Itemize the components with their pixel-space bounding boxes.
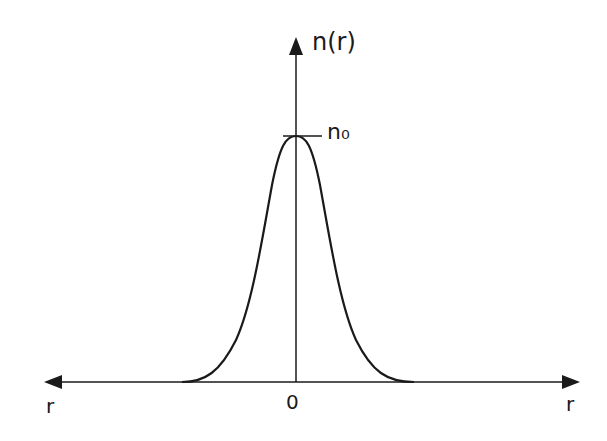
index-profile-plot bbox=[0, 0, 607, 441]
origin-label: 0 bbox=[286, 392, 299, 412]
x-axis-right-label: r bbox=[566, 394, 574, 414]
left-arrow-icon bbox=[44, 375, 62, 389]
x-axis-left-label: r bbox=[46, 396, 54, 416]
y-axis-label: n(r) bbox=[312, 30, 356, 54]
up-arrow-icon bbox=[289, 37, 303, 55]
index-profile-curve bbox=[182, 136, 414, 382]
diagram-canvas: n(r) n₀ 0 r r bbox=[0, 0, 607, 441]
right-arrow-icon bbox=[562, 375, 580, 389]
peak-label: n₀ bbox=[327, 121, 350, 143]
